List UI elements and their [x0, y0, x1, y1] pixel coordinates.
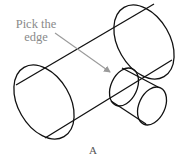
- figure-caption: A: [86, 144, 100, 156]
- small-cylinder-top-edge[interactable]: [122, 68, 158, 87]
- callout-label: Pick the edge: [11, 18, 61, 44]
- large-cylinder-right-face[interactable]: [101, 0, 183, 90]
- callout-line-2: edge: [11, 31, 61, 44]
- small-cylinder-front-face[interactable]: [104, 63, 144, 110]
- large-cylinder-bottom-edge[interactable]: [45, 60, 172, 138]
- callout-arrow: [55, 33, 110, 72]
- small-cylinder-back-face[interactable]: [132, 82, 172, 129]
- diagram-canvas: Pick the edge A: [0, 0, 183, 165]
- small-cylinder-bottom-edge[interactable]: [111, 101, 146, 124]
